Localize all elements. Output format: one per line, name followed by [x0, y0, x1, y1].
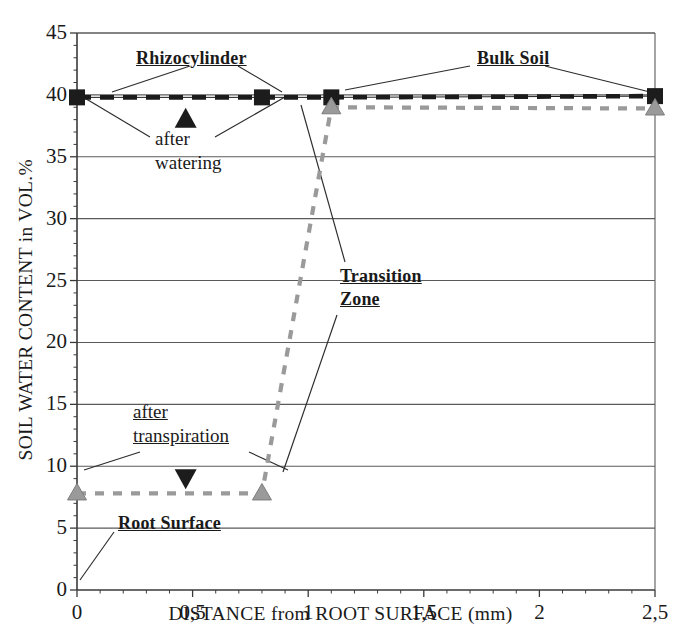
annotation-root-surface: Root Surface [118, 512, 221, 535]
leader-root-surface-0 [80, 532, 114, 580]
annotation-bulk-soil-text: Bulk Soil [477, 47, 549, 70]
annotation-after-watering-line-1: watering [155, 151, 221, 175]
marker-square-0-0 [69, 89, 85, 105]
chart-figure: 051015202530354045 00,511,522,5 DISTANCE… [0, 0, 681, 640]
y-tick-label-45: 45 [23, 22, 67, 43]
annotation-after-transpiration-line-0: after [133, 400, 229, 424]
chart-plot-svg [0, 0, 681, 640]
annotation-rhizocylinder: Rhizocylinder [136, 47, 247, 70]
direction-down-triangle-transpiration [175, 469, 197, 489]
leader-bulk-soil-0 [345, 66, 470, 90]
leader-transition-zone-0 [301, 105, 345, 262]
marker-triangle-1-1 [252, 483, 271, 500]
annotation-after-transpiration-line-1: transpiration [133, 424, 229, 448]
annotation-root-surface-text: Root Surface [118, 512, 221, 535]
annotation-transition-zone: TransitionZone [340, 265, 422, 311]
y-axis-title: SOIL WATER CONTENT in VOL.% [16, 50, 36, 570]
annotation-after-watering-line-0: after [155, 127, 221, 151]
y-tick-label-0: 0 [23, 579, 67, 600]
marker-square-0-1 [254, 89, 270, 105]
leader-bulk-soil-1 [545, 66, 650, 92]
annotation-rhizocylinder-text: Rhizocylinder [136, 47, 247, 70]
leader-after-watering-1 [215, 97, 285, 137]
leader-after-watering-0 [83, 97, 150, 137]
direction-up-triangle-watering [175, 108, 197, 128]
leader-after-transpiration-0 [84, 452, 140, 470]
annotation-after-watering: afterwatering [155, 127, 221, 176]
annotation-transition-zone-line-1: Zone [340, 288, 422, 311]
annotation-bulk-soil: Bulk Soil [477, 47, 549, 70]
axis-lines [77, 33, 655, 590]
x-axis-title: DISTANCE from ROOT SURFACE (mm) [0, 604, 681, 624]
annotation-transition-zone-line-0: Transition [340, 265, 422, 288]
annotation-after-transpiration: aftertranspiration [133, 400, 229, 449]
